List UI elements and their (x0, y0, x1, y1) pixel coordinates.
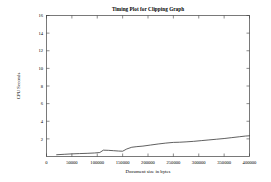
chart-background (0, 0, 271, 182)
x-axis-tick-labels: 0500001000001500002000002500003000003500… (45, 160, 257, 165)
y-tick-label: 12 (38, 48, 43, 53)
x-tick-label: 200000 (141, 160, 155, 165)
x-tick-label: 50000 (66, 160, 78, 165)
x-tick-label: 250000 (166, 160, 180, 165)
y-tick-label: 14 (38, 31, 43, 36)
timing-plot-chart: Timing Plot for Clipping Graph 246810121… (0, 0, 271, 182)
x-axis-label: Document size in bytes (126, 169, 171, 174)
y-tick-label: 10 (38, 66, 43, 71)
y-tick-label: 16 (38, 13, 43, 18)
x-tick-label: 400000 (243, 160, 257, 165)
x-tick-label: 300000 (192, 160, 206, 165)
chart-figure: Timing Plot for Clipping Graph 246810121… (0, 0, 271, 182)
x-tick-label: 150000 (116, 160, 130, 165)
x-tick-label: 350000 (217, 160, 231, 165)
chart-title: Timing Plot for Clipping Graph (112, 6, 184, 12)
x-tick-label: 100000 (90, 160, 104, 165)
y-axis-label: CPU Seconds (16, 73, 21, 100)
